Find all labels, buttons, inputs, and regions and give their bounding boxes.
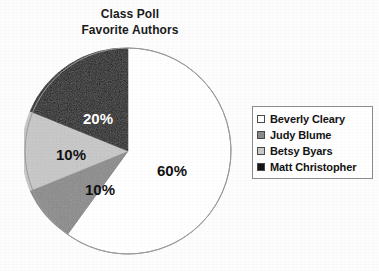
legend-label: Matt Christopher — [270, 161, 356, 173]
pie-slice-label-beverly-cleary: 60% — [157, 162, 187, 179]
pie-svg: 60% 10% 10% 20% — [24, 47, 232, 255]
chart-title-line-2: Favorite Authors — [30, 22, 230, 38]
pie-plot-area: 60% 10% 10% 20% — [24, 47, 232, 255]
legend-swatch-icon — [257, 115, 265, 123]
pie-slice-label-matt-christopher: 20% — [83, 110, 113, 127]
chart-title: Class Poll Favorite Authors — [30, 6, 230, 38]
legend-label: Judy Blume — [270, 129, 331, 141]
legend-item-judy-blume[interactable]: Judy Blume — [257, 127, 368, 142]
legend-swatch-icon — [257, 131, 265, 139]
chart-title-line-1: Class Poll — [30, 6, 230, 22]
pie-chart-figure: Class Poll Favorite Authors — [0, 0, 379, 271]
legend-label: Betsy Byars — [270, 145, 333, 157]
pie-slice-label-judy-blume: 10% — [85, 181, 115, 198]
legend-swatch-icon — [257, 147, 265, 155]
pie-slice-label-betsy-byars: 10% — [56, 146, 86, 163]
legend-item-betsy-byars[interactable]: Betsy Byars — [257, 143, 368, 158]
legend-item-beverly-cleary[interactable]: Beverly Cleary — [257, 111, 368, 126]
legend-label: Beverly Cleary — [270, 113, 345, 125]
legend-item-matt-christopher[interactable]: Matt Christopher — [257, 159, 368, 174]
chart-legend: Beverly Cleary Judy Blume Betsy Byars Ma… — [252, 106, 373, 179]
legend-swatch-icon — [257, 163, 265, 171]
